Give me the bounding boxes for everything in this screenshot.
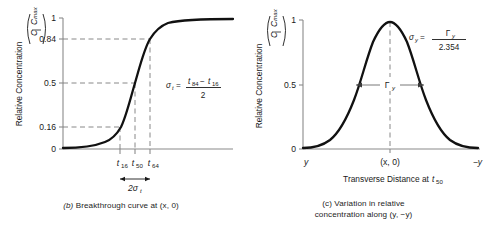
panel-c-formula: σ y = Γ y 2.354 <box>409 29 466 52</box>
panel-b-ytick-label-05: 0.5 <box>44 78 56 88</box>
panel-b-y-axis-label-text: Relative Concentration <box>14 41 24 126</box>
panel-b-xtick-label-t64-sub: 64 <box>152 162 159 169</box>
panel-c-x-axis-label: Transverse Distance at t 50 <box>343 174 443 185</box>
panel-transverse-distribution: Relative Concentration C C max 1 0.5 0 <box>242 0 485 234</box>
panel-b-caption-prefix: (b) <box>63 201 73 210</box>
panel-c-formula-num: Γ <box>446 29 451 38</box>
panel-b-y-axis-label: Relative Concentration <box>14 41 24 126</box>
panel-b-formula: σ t = t 84 − t 16 2 <box>166 77 221 100</box>
panel-c-y-axis-label-text: Relative Concentration <box>254 43 264 128</box>
panel-b-span-label-sub: t <box>140 187 142 194</box>
panel-c-plot: Relative Concentration C C max 1 0.5 0 <box>242 0 485 200</box>
panel-c-formula-num-sub: y <box>451 33 456 39</box>
panel-b-formula-num-b-sub: 16 <box>212 81 219 87</box>
panel-b-formula-equals: = <box>176 81 181 90</box>
panel-c-caption: (c) Variation in relative concentration … <box>242 198 485 220</box>
panel-c-ratio-denominator-sub: max <box>271 8 278 20</box>
panel-breakthrough-curve: Relative Concentration C C max 1 0.84 <box>0 0 242 234</box>
panel-b-xtick-label-t64: t 64 <box>148 158 160 169</box>
panel-c-xtick-label-right: −y <box>473 157 483 167</box>
panel-c-xtick-label-center: (x, 0) <box>380 157 400 167</box>
panel-c-x-axis-label-sym: t <box>432 174 435 184</box>
panel-b-span-arrow-right <box>145 177 150 181</box>
panel-c-fwhm-label-backdrop <box>380 77 400 91</box>
panel-b-paren-left <box>28 14 31 44</box>
panel-b-formula-num-b: t <box>208 77 211 86</box>
panel-c-y-axis-ratio: C C max <box>268 8 286 46</box>
panel-c-xtick-label-left: y <box>303 157 309 167</box>
panel-b-xtick-label-t16-sub: 16 <box>121 162 128 169</box>
panel-c-x-axis-label-prefix: Transverse Distance at <box>343 174 429 184</box>
panel-b-ytick-label-1: 1 <box>51 13 56 23</box>
panel-b-ratio-denominator-sub: max <box>31 6 38 18</box>
panel-b-ytick-label-0: 0 <box>51 144 56 154</box>
panel-b-span-label: 2σ <box>127 183 139 193</box>
panel-b-span-arrow-left <box>120 177 125 181</box>
panel-c-ytick-label-0: 0 <box>291 144 296 154</box>
panel-b-formula-denominator: 2 <box>201 91 206 100</box>
panel-b-ytick-label-016: 0.16 <box>39 122 56 132</box>
panel-b-plot: Relative Concentration C C max 1 0.84 <box>0 0 242 200</box>
panel-c-formula-equals: = <box>420 33 425 42</box>
panel-c-ytick-label-05: 0.5 <box>284 80 296 90</box>
panel-b-formula-num-a-sub: 84 <box>192 81 199 87</box>
panel-b-xtick-label-t64-base: t <box>148 158 151 168</box>
panel-b-caption: (b) Breakthrough curve at (x, 0) <box>0 200 242 211</box>
panel-b-span-annotation: 2σ t <box>120 177 150 194</box>
panel-c-y-axis-label: Relative Concentration <box>254 43 264 128</box>
panel-b-xtick-label-t50-sub: 50 <box>136 162 143 169</box>
panel-c-formula-denominator: 2.354 <box>439 43 460 52</box>
panel-b-formula-num-a: t <box>188 77 191 86</box>
panel-c-fwhm-annotation: Γ y <box>356 77 424 91</box>
panel-b-xtick-label-t50-base: t <box>132 158 135 168</box>
figure-container: Relative Concentration C C max 1 0.84 <box>0 0 485 234</box>
panel-c-paren-left <box>268 16 271 46</box>
panel-b-ytick-label-084: 0.84 <box>39 34 56 44</box>
panel-c-paren-right <box>283 16 286 46</box>
panel-b-xtick-label-t50: t 50 <box>132 158 144 169</box>
panel-c-fwhm-label: Γ <box>385 80 390 90</box>
panel-c-ytick-label-1: 1 <box>291 15 296 25</box>
panel-c-x-axis-label-sub: 50 <box>436 178 443 185</box>
panel-b-formula-lhs-sub: t <box>172 85 174 91</box>
panel-c-caption-line1: (c) Variation in relative <box>242 198 485 209</box>
panel-b-formula-minus: − <box>200 77 205 86</box>
panel-b-xtick-label-t16-base: t <box>117 158 120 168</box>
panel-b-caption-text: Breakthrough curve at (x, 0) <box>73 201 178 210</box>
panel-c-formula-lhs-sub: y <box>414 37 419 43</box>
panel-c-caption-line2: concentration along (y, −y) <box>242 209 485 220</box>
panel-b-xtick-label-t16: t 16 <box>117 158 129 169</box>
